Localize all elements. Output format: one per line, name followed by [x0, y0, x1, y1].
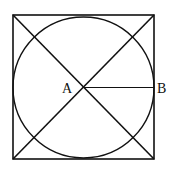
- geometry-diagram: A B: [0, 0, 169, 174]
- point-b-label: B: [157, 81, 166, 96]
- point-a-label: A: [62, 81, 73, 96]
